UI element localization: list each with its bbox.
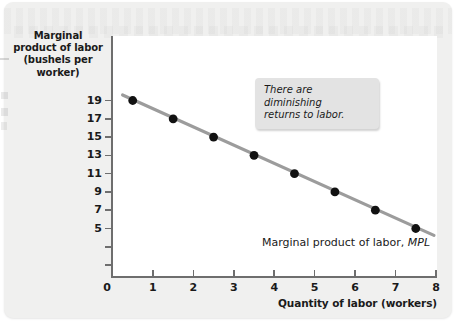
data-point (209, 133, 218, 142)
chart-page: Marginal product of labor (bushels per w… (0, 0, 456, 323)
data-point (128, 96, 137, 105)
series-label-symbol: MPL (408, 236, 430, 249)
callout-line-2: returns to labor. (264, 109, 370, 122)
callout-line-1: There are diminishing (264, 84, 370, 109)
data-point (331, 188, 340, 197)
series-label: Marginal product of labor, MPL (262, 236, 430, 249)
data-point (290, 169, 299, 178)
data-point (371, 206, 380, 215)
x-axis-title: Quantity of labor (workers) (237, 297, 437, 309)
data-point (250, 151, 259, 160)
chart-series-svg (0, 0, 456, 323)
series-label-text: Marginal product of labor, (262, 236, 404, 249)
data-point (169, 114, 178, 123)
diminishing-returns-callout: There are diminishing returns to labor. (255, 78, 379, 129)
data-point (411, 224, 420, 233)
